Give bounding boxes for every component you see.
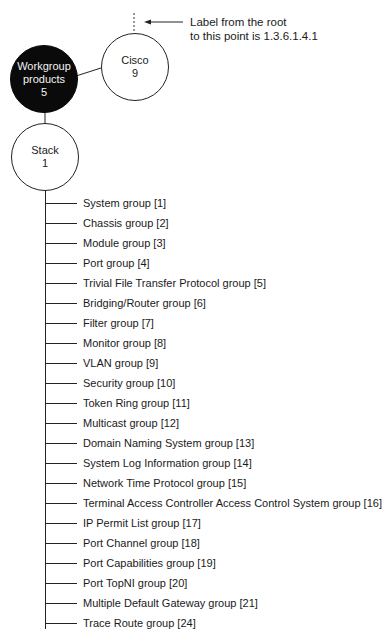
group-branches <box>46 204 78 624</box>
group-item: Bridging/Router group [6] <box>83 296 382 316</box>
node-cisco-label: Cisco <box>121 54 149 67</box>
group-item: Multiple Default Gateway group [21] <box>83 596 382 616</box>
group-item: Monitor group [8] <box>83 336 382 356</box>
group-item: Filter group [7] <box>83 316 382 336</box>
node-stack-number: 1 <box>42 157 48 170</box>
group-item: Terminal Access Controller Access Contro… <box>83 496 382 516</box>
annotation-line-1: Label from the root <box>190 15 318 29</box>
group-item: Chassis group [2] <box>83 216 382 236</box>
group-item: Port Channel group [18] <box>83 536 382 556</box>
group-item: Trivial File Transfer Protocol group [5] <box>83 276 382 296</box>
group-item: Module group [3] <box>83 236 382 256</box>
node-cisco: Cisco 9 <box>101 33 169 101</box>
group-item: Network Time Protocol group [15] <box>83 476 382 496</box>
node-workgroup-number: 5 <box>41 86 47 99</box>
node-workgroup-products: Workgroup products 5 <box>10 45 78 113</box>
group-item: Port TopNI group [20] <box>83 576 382 596</box>
group-item: Port group [4] <box>83 256 382 276</box>
node-workgroup-label-1: Workgroup <box>17 60 71 73</box>
group-item: System group [1] <box>83 196 382 216</box>
group-item: Security group [10] <box>83 376 382 396</box>
group-item: Multicast group [12] <box>83 416 382 436</box>
stack-group-list: System group [1] Chassis group [2] Modul… <box>83 196 382 636</box>
node-stack: Stack 1 <box>11 123 79 191</box>
annotation-line-2: to this point is 1.3.6.1.4.1 <box>190 29 318 43</box>
group-item: VLAN group [9] <box>83 356 382 376</box>
group-item: Trace Route group [24] <box>83 616 382 636</box>
cisco-workgroup-connector <box>76 68 101 76</box>
root-label-annotation: Label from the root to this point is 1.3… <box>190 15 318 43</box>
group-item: IP Permit List group [17] <box>83 516 382 536</box>
group-item: Port Capabilities group [19] <box>83 556 382 576</box>
node-workgroup-label-2: products <box>23 73 65 86</box>
group-item: Domain Naming System group [13] <box>83 436 382 456</box>
node-cisco-number: 9 <box>132 67 138 80</box>
node-stack-label: Stack <box>31 144 59 157</box>
group-item: Token Ring group [11] <box>83 396 382 416</box>
group-item: System Log Information group [14] <box>83 456 382 476</box>
arrowhead-icon <box>144 20 151 25</box>
